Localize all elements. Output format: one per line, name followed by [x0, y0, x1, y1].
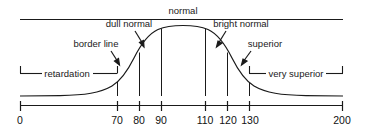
- tick-label-120: 120: [219, 114, 237, 126]
- bell-curve-group: [20, 26, 343, 97]
- tick-label-70: 70: [111, 114, 123, 126]
- arrow-border-line: [111, 51, 120, 65]
- tick-label-130: 130: [241, 114, 259, 126]
- x-axis-tick-labels: 0 70 80 90 110 120 130 200: [17, 114, 351, 126]
- label-border-line: border line: [74, 38, 119, 49]
- bracket-very-superior: very superior: [249, 66, 343, 79]
- iq-bell-curve-figure: 0 70 80 90 110 120 130 200 normal dull n…: [0, 0, 367, 139]
- divider-lines-group: [118, 29, 250, 97]
- arrow-superior: [242, 51, 252, 65]
- label-retardation: retardation: [44, 68, 89, 79]
- tick-label-80: 80: [133, 114, 145, 126]
- label-normal: normal: [168, 5, 197, 16]
- arrow-dull-normal: [135, 31, 144, 47]
- bell-curve-path: [20, 26, 343, 97]
- tick-label-200: 200: [333, 114, 351, 126]
- x-axis-group: [20, 101, 343, 111]
- label-very-superior: very superior: [269, 68, 324, 79]
- label-dull-normal: dull normal: [106, 18, 152, 29]
- label-superior: superior: [248, 38, 282, 49]
- label-bright-normal: bright normal: [213, 18, 268, 29]
- bracket-retardation: retardation: [20, 66, 118, 79]
- tick-label-0: 0: [17, 114, 23, 126]
- tick-label-110: 110: [197, 114, 214, 126]
- tick-label-90: 90: [155, 114, 167, 126]
